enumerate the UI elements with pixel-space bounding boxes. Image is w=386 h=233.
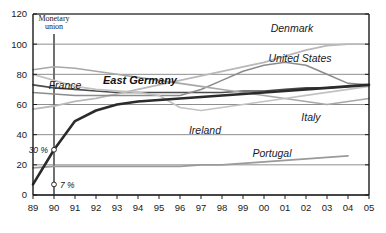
y-axis-label-60: 60 <box>16 99 27 110</box>
x-axis-label-98: 98 <box>217 202 228 213</box>
y-axis-label-40: 40 <box>16 129 27 140</box>
y-axis-label-20: 20 <box>16 159 27 170</box>
x-axis-label-93: 93 <box>112 202 123 213</box>
series-label-portugal: Portugal <box>252 147 292 159</box>
monetary-union-label-line2: union <box>45 22 63 31</box>
x-axis-label-05: 05 <box>364 202 375 213</box>
x-axis-label-92: 92 <box>91 202 102 213</box>
x-axis-label-94: 94 <box>133 202 144 213</box>
y-axis-label-80: 80 <box>16 69 27 80</box>
chart-background <box>0 0 386 233</box>
x-axis-label-96: 96 <box>175 202 186 213</box>
series-label-denmark: Denmark <box>271 22 314 34</box>
series-label-ireland: Ireland <box>189 124 222 136</box>
x-axis-label-00: 00 <box>259 202 270 213</box>
y-axis-label-0: 0 <box>22 189 27 200</box>
x-axis-label-04: 04 <box>343 202 354 213</box>
y-axis-label-120: 120 <box>11 8 27 19</box>
series-label-east-germany: East Germany <box>103 74 178 86</box>
annotation-7-percent: 7 % <box>60 180 75 190</box>
line-chart: 020406080100120 899091929394959697989900… <box>0 0 386 233</box>
y-axis-label-100: 100 <box>11 39 27 50</box>
x-axis-label-97: 97 <box>196 202 207 213</box>
annotation-30-percent: 30 % <box>29 145 49 155</box>
x-axis-label-90: 90 <box>49 202 60 213</box>
series-label-italy: Italy <box>301 111 321 123</box>
chart-container: 020406080100120 899091929394959697989900… <box>0 0 386 233</box>
x-axis-label-91: 91 <box>70 202 81 213</box>
series-label-united-states: United States <box>268 52 332 64</box>
marker-7-percent <box>52 182 57 187</box>
x-axis-label-95: 95 <box>154 202 165 213</box>
x-axis-label-02: 02 <box>301 202 312 213</box>
x-axis-label-89: 89 <box>28 202 39 213</box>
series-label-france: France <box>49 79 82 91</box>
x-axis-label-99: 99 <box>238 202 249 213</box>
x-axis-label-03: 03 <box>322 202 333 213</box>
x-axis-label-01: 01 <box>280 202 291 213</box>
marker-30-percent <box>52 147 57 152</box>
